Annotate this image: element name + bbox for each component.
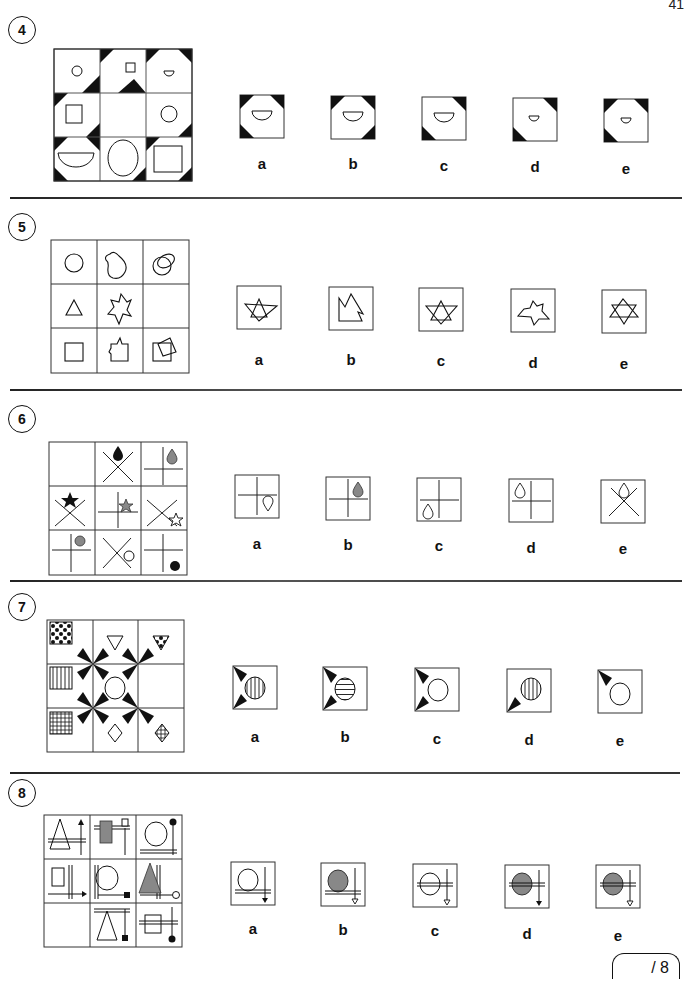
question-8: 8 [0,775,682,978]
matrix-figure [51,240,189,373]
option-b[interactable]: b [321,863,365,906]
puzzle-grid [44,815,182,947]
question-number-badge: 5 [8,213,36,241]
option-a[interactable]: a [231,862,275,905]
question-5: 5 a b [0,200,682,392]
option-label: d [518,354,548,371]
matrix-figure [44,815,182,947]
option-d[interactable]: d [507,669,551,712]
option-c-figure [419,288,463,331]
option-a-figure [240,95,284,138]
question-number-badge: 6 [8,405,36,433]
option-label: e [603,927,633,944]
puzzle-grid [51,240,189,373]
option-d[interactable]: d [509,479,553,522]
option-b[interactable]: b [331,96,375,139]
option-c[interactable]: c [417,478,461,521]
puzzle-grid [49,442,187,575]
option-c[interactable]: c [413,864,457,907]
option-label: a [244,351,274,368]
option-c-figure [422,97,466,140]
question-number-badge: 4 [8,16,36,44]
option-c[interactable]: c [422,97,466,140]
option-label: e [608,540,638,557]
option-label: b [338,155,368,172]
section-divider [10,197,682,199]
option-label: e [605,732,635,749]
option-d[interactable]: d [505,865,549,908]
option-label: c [420,922,450,939]
section-divider [10,772,680,774]
option-label: c [422,730,452,747]
option-a[interactable]: a [237,286,281,329]
option-a[interactable]: a [235,475,279,518]
option-d-figure [507,669,551,712]
option-e[interactable]: e [601,480,645,523]
option-b-figure [331,96,375,139]
option-d-figure [513,98,557,141]
matrix-figure [54,49,192,181]
option-d-figure [509,479,553,522]
option-a[interactable]: a [240,95,284,138]
option-e[interactable]: e [596,865,640,908]
score-box: / 8 [612,953,680,979]
option-label: b [328,921,358,938]
option-b[interactable]: b [329,287,373,330]
option-d-figure [511,289,555,332]
option-c[interactable]: c [415,668,459,711]
option-d[interactable]: d [511,289,555,332]
option-e[interactable]: e [598,670,642,713]
option-label: e [611,160,641,177]
option-label: d [514,731,544,748]
option-b[interactable]: b [326,477,370,520]
option-label: a [242,535,272,552]
option-label: c [424,537,454,554]
question-6: 6 [0,390,682,580]
question-number-badge: 8 [8,779,36,807]
option-e-figure [598,670,642,713]
option-label: d [516,539,546,556]
option-e-figure [602,290,646,333]
option-b-figure [321,863,365,906]
option-label: c [429,157,459,174]
option-label: c [426,352,456,369]
option-a-figure [231,862,275,905]
question-7: 7 [0,580,682,775]
option-b-figure [326,477,370,520]
option-e-figure [596,865,640,908]
option-label: b [333,536,363,553]
option-label: a [238,920,268,937]
option-c-figure [417,478,461,521]
question-number-badge: 7 [8,593,36,621]
option-label: d [520,158,550,175]
matrix-figure [49,442,187,575]
option-d[interactable]: d [513,98,557,141]
option-a-figure [237,286,281,329]
option-b-figure [329,287,373,330]
option-c-figure [415,668,459,711]
option-b[interactable]: b [323,667,367,710]
option-e[interactable]: e [602,290,646,333]
option-e-figure [604,99,648,142]
puzzle-grid [54,49,192,181]
option-c[interactable]: c [419,288,463,331]
option-d-figure [505,865,549,908]
option-label: e [609,355,639,372]
option-label: b [336,351,366,368]
matrix-figure [47,620,184,752]
option-label: a [240,728,270,745]
option-label: a [247,155,277,172]
option-a-figure [233,666,277,709]
option-label: b [330,728,360,745]
option-e-figure [601,480,645,523]
puzzle-grid [47,620,184,752]
option-label: d [512,925,542,942]
option-e[interactable]: e [604,99,648,142]
option-b-figure [323,667,367,710]
option-a[interactable]: a [233,666,277,709]
question-4: 4 [0,0,682,200]
option-c-figure [413,864,457,907]
option-a-figure [235,475,279,518]
